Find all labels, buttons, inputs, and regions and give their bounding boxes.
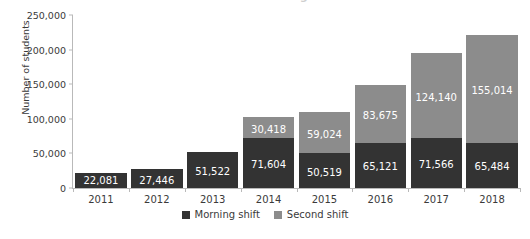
y-tick-label: 200,000 xyxy=(27,44,73,55)
x-tick-label-2015: 2015 xyxy=(312,194,337,205)
bar-group[interactable]: 50,51959,024 xyxy=(299,15,350,188)
y-tick-mark xyxy=(69,49,73,50)
y-tick-label: 100,000 xyxy=(27,113,73,124)
x-tick-label-2016: 2016 xyxy=(368,194,393,205)
bar-group[interactable]: 51,522 xyxy=(187,15,238,188)
bar-value-label-morning-shift: 51,522 xyxy=(187,166,238,177)
y-tick-mark xyxy=(69,84,73,85)
bar-group[interactable]: 65,484155,014 xyxy=(466,15,517,188)
x-tick-label-2018: 2018 xyxy=(479,194,504,205)
legend-label: Second shift xyxy=(287,209,349,220)
chart-legend: Morning shiftSecond shift xyxy=(0,209,530,220)
bar-value-label-second-shift: 124,140 xyxy=(411,92,462,103)
chart-title: Number of students in morning and second… xyxy=(46,0,492,2)
x-tick-label-2012: 2012 xyxy=(144,194,169,205)
bar-value-label-morning-shift: 71,604 xyxy=(243,159,294,170)
x-tick-mark xyxy=(241,188,242,192)
bar-group[interactable]: 71,566124,140 xyxy=(411,15,462,188)
x-tick-mark xyxy=(297,188,298,192)
y-tick-label: 250,000 xyxy=(27,10,73,21)
bar-value-label-second-shift: 83,675 xyxy=(355,110,406,121)
bar-value-label-morning-shift: 27,446 xyxy=(131,175,182,186)
y-tick-mark xyxy=(69,15,73,16)
x-tick-mark xyxy=(520,188,521,192)
bar-value-label-second-shift: 155,014 xyxy=(466,85,517,96)
legend-swatch-icon xyxy=(182,211,190,219)
legend-label: Morning shift xyxy=(195,209,260,220)
x-tick-mark xyxy=(129,188,130,192)
plot-area: 050,000100,000150,000200,000250,000 22,0… xyxy=(73,15,520,188)
x-tick-label-2017: 2017 xyxy=(423,194,448,205)
x-tick-label-2014: 2014 xyxy=(256,194,281,205)
stacked-bar-chart: Number of students in morning and second… xyxy=(0,0,530,239)
bar-value-label-morning-shift: 50,519 xyxy=(299,167,350,178)
bar-group[interactable]: 22,081 xyxy=(75,15,126,188)
bar-value-label-second-shift: 59,024 xyxy=(299,129,350,140)
y-tick-mark xyxy=(69,153,73,154)
bar-group[interactable]: 71,60430,418 xyxy=(243,15,294,188)
y-tick-mark xyxy=(69,118,73,119)
legend-item-morning-shift[interactable]: Morning shift xyxy=(182,209,260,220)
bar-value-label-morning-shift: 65,121 xyxy=(355,161,406,172)
bar-value-label-morning-shift: 71,566 xyxy=(411,159,462,170)
bar-group[interactable]: 27,446 xyxy=(131,15,182,188)
x-tick-mark xyxy=(464,188,465,192)
legend-swatch-icon xyxy=(274,211,282,219)
bar-value-label-morning-shift: 22,081 xyxy=(75,175,126,186)
legend-item-second-shift[interactable]: Second shift xyxy=(274,209,349,220)
x-tick-mark xyxy=(352,188,353,192)
x-tick-mark xyxy=(185,188,186,192)
x-tick-mark xyxy=(73,188,74,192)
y-tick-label: 50,000 xyxy=(33,148,73,159)
bar-group[interactable]: 65,12183,675 xyxy=(355,15,406,188)
x-tick-label-2011: 2011 xyxy=(88,194,113,205)
x-tick-mark xyxy=(408,188,409,192)
bar-value-label-second-shift: 30,418 xyxy=(243,124,294,135)
x-tick-label-2013: 2013 xyxy=(200,194,225,205)
y-tick-label: 150,000 xyxy=(27,79,73,90)
bar-value-label-morning-shift: 65,484 xyxy=(466,161,517,172)
